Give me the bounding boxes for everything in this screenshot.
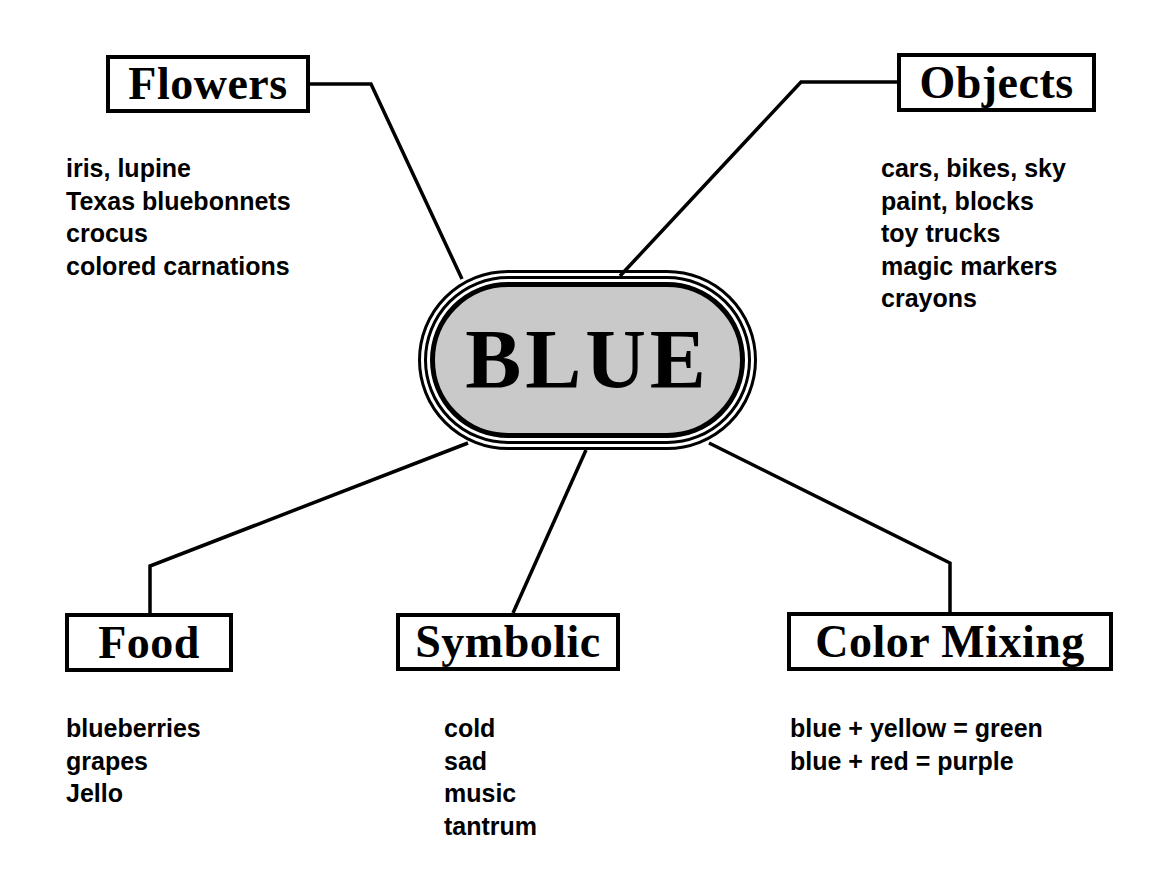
list-item: tantrum [444, 810, 537, 843]
branch-label-objects: Objects [919, 60, 1073, 106]
list-item: paint, blocks [881, 185, 1066, 218]
branch-box-symbolic[interactable]: Symbolic [396, 613, 620, 671]
connector-symbolic [513, 450, 586, 613]
branch-items-color-mixing: blue + yellow = green blue + red = purpl… [790, 712, 1043, 777]
list-item: blue + red = purple [790, 745, 1043, 778]
list-item: cars, bikes, sky [881, 152, 1066, 185]
connector-color-mixing [709, 443, 950, 612]
branch-label-symbolic: Symbolic [415, 619, 600, 665]
list-item: Texas bluebonnets [66, 185, 291, 218]
list-item: sad [444, 745, 537, 778]
concept-map-canvas: Flowers iris, lupine Texas bluebonnets c… [0, 0, 1176, 895]
connector-objects [620, 82, 897, 276]
branch-box-color-mixing[interactable]: Color Mixing [787, 612, 1113, 671]
branch-items-objects: cars, bikes, sky paint, blocks toy truck… [881, 152, 1066, 315]
list-item: crocus [66, 217, 291, 250]
list-item: blueberries [66, 712, 201, 745]
list-item: music [444, 777, 537, 810]
branch-items-flowers: iris, lupine Texas bluebonnets crocus co… [66, 152, 291, 282]
list-item: blue + yellow = green [790, 712, 1043, 745]
list-item: colored carnations [66, 250, 291, 283]
list-item: Jello [66, 777, 201, 810]
connector-food [150, 443, 468, 613]
list-item: magic markers [881, 250, 1066, 283]
central-node-blue[interactable]: BLUE [418, 270, 757, 450]
list-item: iris, lupine [66, 152, 291, 185]
connector-flowers [310, 84, 462, 279]
branch-label-flowers: Flowers [128, 61, 287, 107]
list-item: toy trucks [881, 217, 1066, 250]
branch-label-color-mixing: Color Mixing [815, 619, 1085, 665]
list-item: grapes [66, 745, 201, 778]
branch-box-flowers[interactable]: Flowers [106, 55, 310, 113]
list-item: cold [444, 712, 537, 745]
branch-items-food: blueberries grapes Jello [66, 712, 201, 810]
list-item: crayons [881, 282, 1066, 315]
branch-box-objects[interactable]: Objects [897, 53, 1096, 112]
central-node-label: BLUE [418, 270, 757, 450]
branch-items-symbolic: cold sad music tantrum [444, 712, 537, 842]
branch-box-food[interactable]: Food [65, 613, 233, 672]
branch-label-food: Food [98, 620, 200, 666]
